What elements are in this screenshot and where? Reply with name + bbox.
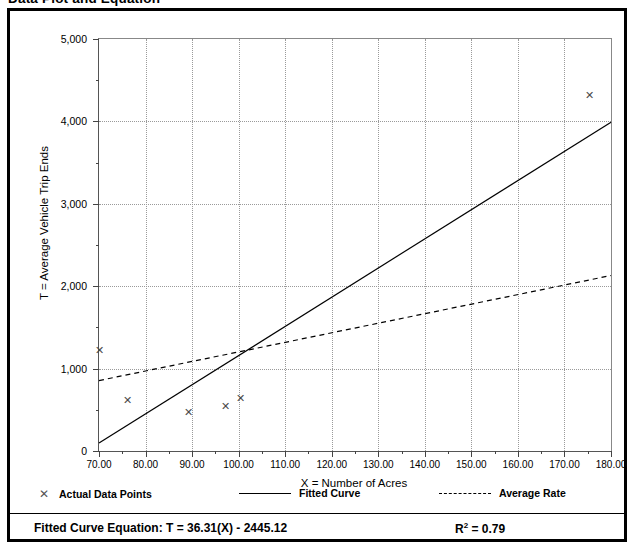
y-tick xyxy=(93,451,99,452)
x-tick-label: 170.00 xyxy=(549,459,580,470)
legend-label: Fitted Curve xyxy=(299,487,360,499)
y-tick xyxy=(93,369,99,370)
r-squared-prefix: R xyxy=(455,522,464,536)
y-tick-label: 3,000 xyxy=(61,198,87,210)
x-minor-tick xyxy=(355,451,356,454)
legend-item-average-rate: Average Rate xyxy=(439,487,566,499)
x-tick xyxy=(564,451,565,457)
r-squared-number: = 0.79 xyxy=(468,522,505,536)
x-minor-tick xyxy=(402,451,403,454)
y-tick xyxy=(93,204,99,205)
legend-item-actual-data-points: ✕ Actual Data Points xyxy=(37,487,152,501)
y-tick xyxy=(93,121,99,122)
x-tick-label: 120.00 xyxy=(316,459,347,470)
plot-lines-svg xyxy=(99,39,611,451)
x-marker-icon: ✕ xyxy=(37,487,51,501)
y-tick xyxy=(93,39,99,40)
x-tick xyxy=(378,451,379,457)
legend-label: Average Rate xyxy=(499,487,566,499)
y-minor-tick xyxy=(96,245,99,246)
legend-label: Actual Data Points xyxy=(59,488,152,500)
x-tick xyxy=(471,451,472,457)
y-minor-tick xyxy=(96,80,99,81)
x-tick xyxy=(518,451,519,457)
x-tick xyxy=(99,451,100,457)
y-tick-label: 4,000 xyxy=(61,115,87,127)
y-tick-label: 0 xyxy=(81,445,87,457)
x-minor-tick xyxy=(169,451,170,454)
x-tick-label: 100.00 xyxy=(223,459,254,470)
x-tick-label: 80.00 xyxy=(133,459,158,470)
r-squared-value: R2 = 0.79 xyxy=(455,521,505,536)
x-tick-label: 90.00 xyxy=(180,459,205,470)
x-tick-label: 110.00 xyxy=(270,459,300,470)
series-line-fitted-curve xyxy=(99,122,611,443)
equation-divider xyxy=(10,513,624,514)
x-minor-tick xyxy=(588,451,589,454)
legend-item-fitted-curve: Fitted Curve xyxy=(239,487,360,499)
x-minor-tick xyxy=(308,451,309,454)
y-tick-label: 2,000 xyxy=(61,280,87,292)
x-tick-label: 140.00 xyxy=(410,459,441,470)
x-minor-tick xyxy=(495,451,496,454)
y-tick-label: 1,000 xyxy=(61,363,87,375)
y-axis-title: T = Average Vehicle Trip Ends xyxy=(38,43,50,403)
chart-legend: ✕ Actual Data Points Fitted Curve Averag… xyxy=(7,487,627,509)
x-tick-label: 130.00 xyxy=(363,459,394,470)
x-tick-label: 150.00 xyxy=(456,459,487,470)
y-tick xyxy=(93,286,99,287)
x-tick xyxy=(611,451,612,457)
dashed-line-icon xyxy=(439,493,491,494)
x-tick-label: 160.00 xyxy=(503,459,534,470)
x-minor-tick xyxy=(215,451,216,454)
x-minor-tick xyxy=(262,451,263,454)
chart-figure-card: ✕✕✕✕✕✕ 70.0080.0090.00100.00110.00120.00… xyxy=(7,8,627,542)
y-minor-tick xyxy=(96,327,99,328)
x-minor-tick xyxy=(541,451,542,454)
series-line-average-rate xyxy=(99,275,611,380)
y-minor-tick xyxy=(96,410,99,411)
x-tick xyxy=(146,451,147,457)
x-minor-tick xyxy=(448,451,449,454)
equation-row: Fitted Curve Equation: T = 36.31(X) - 24… xyxy=(7,519,627,541)
plot-area: ✕✕✕✕✕✕ 70.0080.0090.00100.00110.00120.00… xyxy=(98,38,612,452)
x-tick xyxy=(285,451,286,457)
page-title: Data Plot and Equation xyxy=(8,0,160,6)
x-tick xyxy=(192,451,193,457)
y-minor-tick xyxy=(96,163,99,164)
solid-line-icon xyxy=(239,493,291,494)
y-tick-label: 5,000 xyxy=(61,33,87,45)
x-tick-label: 180.00 xyxy=(596,459,627,470)
x-tick-label: 70.00 xyxy=(86,459,111,470)
x-tick xyxy=(425,451,426,457)
fitted-curve-equation: Fitted Curve Equation: T = 36.31(X) - 24… xyxy=(34,521,287,535)
x-tick xyxy=(239,451,240,457)
x-minor-tick xyxy=(122,451,123,454)
x-tick xyxy=(332,451,333,457)
